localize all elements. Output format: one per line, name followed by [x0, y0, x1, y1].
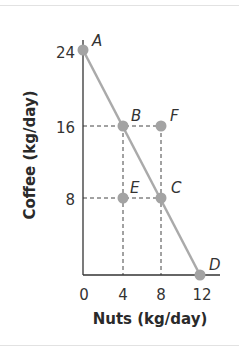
point-b-label: B — [131, 107, 141, 125]
axes — [83, 40, 220, 275]
point-a-marker — [78, 45, 89, 56]
y-tick-24: 24 — [56, 44, 75, 62]
y-axis-title: Coffee (kg/day) — [21, 90, 39, 219]
x-tick-8: 8 — [156, 286, 166, 304]
x-tick-4: 4 — [118, 286, 128, 304]
point-b-marker — [118, 121, 129, 132]
point-d-label: D — [209, 256, 221, 274]
x-tick-12: 12 — [192, 286, 211, 304]
point-e-marker — [118, 193, 129, 204]
point-e-label: E — [130, 179, 140, 197]
x-tick-0: 0 — [79, 286, 89, 304]
point-c-marker — [156, 193, 167, 204]
point-f-label: F — [170, 107, 179, 125]
point-d-marker — [195, 270, 206, 281]
x-axis-title: Nuts (kg/day) — [93, 310, 208, 328]
ppf-line — [83, 50, 200, 275]
point-c-label: C — [171, 179, 182, 197]
bottom-divider — [0, 345, 239, 346]
y-tick-8: 8 — [65, 191, 75, 209]
point-f-marker — [156, 121, 167, 132]
point-a-label: A — [91, 32, 102, 50]
y-tick-16: 16 — [56, 119, 75, 137]
ppf-chart: A B F E C D 24 16 8 0 4 8 12 Nuts (kg/da… — [0, 0, 239, 352]
